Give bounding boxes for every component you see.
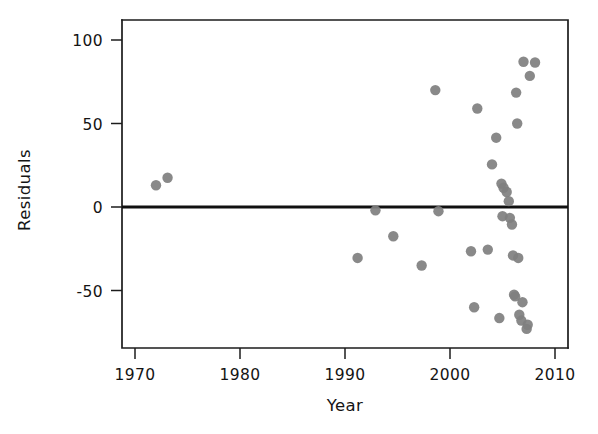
x-tick-label: 1990: [324, 366, 365, 384]
residuals-scatter-figure: 19701980199020002010 -50050100 Year Resi…: [0, 0, 598, 434]
data-point: [466, 246, 476, 256]
y-tick-label: 50: [82, 116, 103, 134]
data-point: [502, 187, 512, 197]
y-tick-label: 0: [93, 199, 103, 217]
data-point: [523, 320, 533, 330]
x-axis-title: Year: [326, 396, 364, 415]
data-point: [370, 205, 380, 215]
data-point: [162, 173, 172, 183]
data-point: [530, 57, 540, 67]
y-tick-label: 100: [72, 32, 103, 50]
data-point: [494, 313, 504, 323]
data-point: [483, 244, 493, 254]
data-point: [511, 87, 521, 97]
data-point: [388, 231, 398, 241]
data-point: [469, 302, 479, 312]
data-point: [513, 253, 523, 263]
y-tick-label: -50: [76, 283, 103, 301]
plot-canvas: 19701980199020002010 -50050100 Year Resi…: [0, 0, 598, 434]
data-point: [512, 118, 522, 128]
data-point: [491, 132, 501, 142]
data-point: [487, 159, 497, 169]
data-point: [416, 260, 426, 270]
data-point: [352, 253, 362, 263]
x-tick-label: 2010: [534, 366, 575, 384]
x-tick-label: 2000: [429, 366, 470, 384]
data-point: [504, 196, 514, 206]
data-point: [433, 206, 443, 216]
data-point: [472, 103, 482, 113]
data-point: [518, 57, 528, 67]
data-point: [525, 71, 535, 81]
data-point: [430, 85, 440, 95]
data-point: [517, 297, 527, 307]
data-point: [507, 219, 517, 229]
x-tick-label: 1980: [219, 366, 260, 384]
x-tick-label: 1970: [114, 366, 155, 384]
y-axis-title: Residuals: [15, 149, 34, 231]
data-point: [151, 180, 161, 190]
